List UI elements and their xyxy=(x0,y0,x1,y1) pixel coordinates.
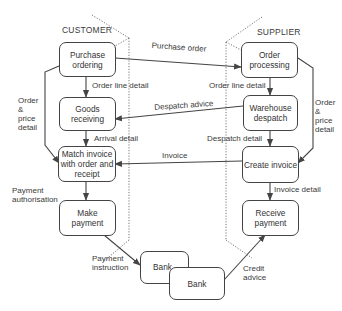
label-credit-advice: Credit advice xyxy=(243,264,266,282)
lane-customer: CUSTOMER xyxy=(62,25,112,35)
process-warehouse-despatch[interactable]: Warehouse despatch xyxy=(243,95,298,131)
label-order-price-detail-customer: Order & price detail xyxy=(18,96,38,132)
process-create-invoice[interactable]: Create invoice xyxy=(242,146,299,183)
label-order-price-detail-supplier: Order & price detail xyxy=(315,98,335,134)
label-despatch-detail: Despatch detail xyxy=(207,134,262,143)
label-order-line-detail-supplier: Order line detail xyxy=(209,81,265,90)
process-order-processing[interactable]: Order processing xyxy=(241,42,298,78)
label-payment-instruction: Payment instruction xyxy=(92,254,128,272)
process-purchase-ordering[interactable]: Purchase ordering xyxy=(59,42,116,77)
arrow-order-price-detail-supplier xyxy=(298,58,313,163)
arrow-invoice xyxy=(115,161,242,164)
label-payment-authorisation: Payment authorisation xyxy=(12,186,58,204)
process-make-payment[interactable]: Make payment xyxy=(59,200,116,236)
process-match-invoice[interactable]: Match invoice with order and receipt xyxy=(58,146,116,182)
arrow-order-price-detail-customer xyxy=(45,66,59,163)
process-receive-payment[interactable]: Receive payment xyxy=(242,200,299,236)
process-bank-supplier[interactable]: Bank xyxy=(169,267,225,300)
label-invoice: Invoice xyxy=(162,151,187,160)
process-goods-receiving[interactable]: Goods receiving xyxy=(59,97,116,131)
label-order-line-detail-customer: Order line detail xyxy=(92,81,148,90)
lane-supplier: SUPPLIER xyxy=(257,27,301,37)
label-arrival-detail: Arrival detail xyxy=(94,134,138,143)
arrow-purchase-order xyxy=(115,58,241,67)
label-invoice-detail: Invoice detail xyxy=(274,185,321,194)
